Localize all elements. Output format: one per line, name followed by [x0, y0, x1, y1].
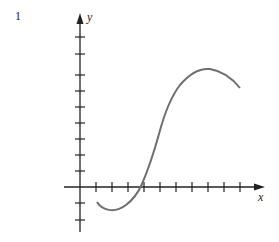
- y-axis-label: y: [87, 10, 92, 25]
- function-curve: [97, 69, 240, 210]
- graph: [0, 0, 279, 242]
- x-axis-label: x: [258, 190, 263, 205]
- y-axis-arrow-icon: [77, 13, 84, 24]
